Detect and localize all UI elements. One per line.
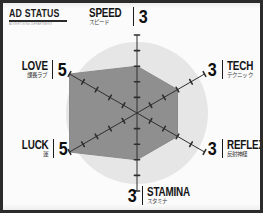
stat-luck-name-jp: 運 (43, 151, 48, 158)
stat-reflex[interactable]: 3 REFLEX 反射神経 (207, 139, 263, 158)
stat-speed-name-en: SPEED (89, 7, 122, 19)
stat-reflex-name-en: REFLEX (227, 139, 263, 151)
stat-stamina-names: STAMINA スタミナ (147, 186, 199, 205)
stat-luck-value: 5 (58, 139, 67, 158)
stat-tech-name-jp: テクニック (227, 72, 253, 79)
stat-stamina[interactable]: 3 STAMINA スタミナ (127, 186, 199, 205)
stat-speed-value: 3 (138, 7, 147, 26)
stat-stamina-divider (142, 186, 143, 205)
stat-love-value: 5 (58, 60, 67, 79)
stat-reflex-names: REFLEX 反射神経 (227, 139, 263, 158)
header-subtitle: ADVERTISING DEPARTMENT (9, 22, 61, 26)
stat-love-name-jp: 課長ラブ (27, 72, 48, 79)
stat-tech-names: TECH テクニック (227, 60, 259, 79)
stat-speed-divider (133, 7, 134, 26)
stat-love-name-en: LOVE (22, 60, 48, 72)
axis-tick (203, 72, 206, 77)
stat-luck-divider (53, 139, 54, 158)
stat-stamina-name-en: STAMINA (147, 186, 190, 198)
axis-tick (203, 150, 206, 155)
stat-speed-names: SPEED スピード (89, 7, 129, 26)
card-header: AD STATUS ADVERTISING DEPARTMENT (9, 8, 67, 26)
stat-love-names: LOVE 課長ラブ (16, 60, 48, 79)
stat-reflex-name-jp: 反射神経 (227, 151, 248, 158)
stat-love[interactable]: LOVE 課長ラブ 5 (16, 60, 67, 79)
radar-chart-svg (3, 3, 263, 213)
stat-tech-value: 3 (208, 60, 217, 79)
stat-tech[interactable]: 3 TECH テクニック (207, 60, 258, 79)
data-polygon (70, 66, 178, 160)
stat-speed-name-jp: スピード (89, 19, 110, 26)
stat-love-divider (52, 60, 53, 79)
stat-tech-divider (222, 60, 223, 79)
page-title: AD STATUS (9, 8, 60, 19)
stat-reflex-value: 3 (208, 139, 217, 158)
stat-reflex-divider (222, 139, 223, 158)
stat-stamina-name-jp: スタミナ (147, 198, 168, 205)
ad-status-card: AD STATUS ADVERTISING DEPARTMENT SPEED ス… (0, 0, 263, 213)
stat-luck[interactable]: LUCK 運 5 (16, 139, 68, 158)
radar-chart (3, 3, 263, 213)
stat-luck-names: LUCK 運 (16, 139, 49, 158)
stat-speed[interactable]: SPEED スピード 3 (89, 7, 148, 26)
stat-tech-name-en: TECH (227, 60, 253, 72)
stat-luck-name-en: LUCK (22, 139, 49, 151)
stat-stamina-value: 3 (128, 186, 137, 205)
